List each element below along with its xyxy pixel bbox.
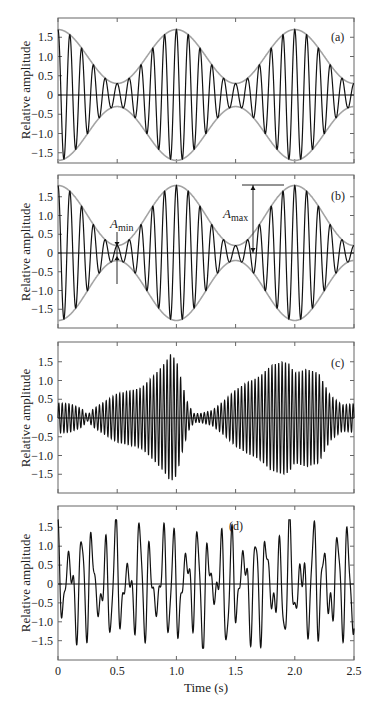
y-tick-label: 0 xyxy=(47,88,53,102)
y-tick-label: 1.0 xyxy=(38,374,53,388)
panel-a-envelope-upper xyxy=(58,30,354,84)
panel-c-signal xyxy=(58,354,354,480)
panel-c-label: (c) xyxy=(331,356,344,370)
y-tick-label: −1.0 xyxy=(31,449,53,463)
panel-b-ylabel: Relative amplitude xyxy=(18,202,33,301)
y-tick-label: 1.5 xyxy=(38,190,53,204)
panel-d-ylabel: Relative amplitude xyxy=(18,533,33,632)
y-tick-label: 0.5 xyxy=(38,558,53,572)
y-tick-label: 0 xyxy=(47,246,53,260)
a-min-annotation: Amin xyxy=(109,216,134,284)
panel-c-ylabel: Relative amplitude xyxy=(18,368,33,467)
y-tick-label: −1.5 xyxy=(31,467,53,481)
a-min-label: Amin xyxy=(109,216,134,233)
y-tick-label: 1.5 xyxy=(38,520,53,534)
y-tick-label: 0 xyxy=(47,577,53,591)
x-tick-label: 1.0 xyxy=(169,664,184,678)
a-max-arrow-head-down xyxy=(251,248,256,253)
a-max-label: Amax xyxy=(222,206,248,223)
y-tick-label: −0.5 xyxy=(31,107,53,121)
y-tick-label: 0 xyxy=(47,411,53,425)
panel-d-xticks xyxy=(58,506,354,660)
panel-a-signal xyxy=(58,30,354,160)
y-tick-label: −1.0 xyxy=(31,127,53,141)
x-tick-label: 1.5 xyxy=(228,664,243,678)
y-tick-label: −0.5 xyxy=(31,430,53,444)
y-tick-label: 1.5 xyxy=(38,355,53,369)
y-tick-label: −1.5 xyxy=(31,302,53,316)
y-tick-label: −1.0 xyxy=(31,284,53,298)
panel-a-ylabel: Relative amplitude xyxy=(18,40,33,139)
y-tick-label: 0.5 xyxy=(38,392,53,406)
y-tick-label: −1.5 xyxy=(31,146,53,160)
panel-b-signal xyxy=(58,186,354,320)
y-tick-label: 1.0 xyxy=(38,50,53,64)
panel-a-label: (a) xyxy=(331,30,344,44)
y-tick-label: 1.0 xyxy=(38,539,53,553)
x-tick-label: 0 xyxy=(55,664,61,678)
panel-d-frame xyxy=(58,506,354,660)
y-tick-label: −1.5 xyxy=(31,634,53,648)
a-max-annotation: Amax xyxy=(222,185,284,253)
panel-d-label: (d) xyxy=(229,519,243,533)
x-tick-label: 0.5 xyxy=(110,664,125,678)
y-tick-label: 1.0 xyxy=(38,209,53,223)
panel-b-label: (b) xyxy=(331,189,345,203)
y-tick-label: −1.0 xyxy=(31,615,53,629)
y-tick-label: −0.5 xyxy=(31,265,53,279)
panel-d: 1.51.00.50−0.5−1.0−1.5 (d) Relative ampl… xyxy=(18,506,362,695)
y-tick-label: −0.5 xyxy=(31,596,53,610)
y-tick-label: 1.5 xyxy=(38,30,53,44)
panel-c: 1.51.00.50−0.5−1.0−1.5 (c) Relative ampl… xyxy=(18,342,354,493)
figure: 1.51.00.50−0.5−1.0−1.5 (a) Relative ampl… xyxy=(0,0,373,704)
x-axis-title: Time (s) xyxy=(184,680,228,695)
y-tick-label: 0.5 xyxy=(38,69,53,83)
x-tick-label: 2.5 xyxy=(347,664,362,678)
a-min-arrow-head-up xyxy=(115,256,120,260)
x-tick-labels: 00.51.01.52.02.5 xyxy=(55,664,362,678)
x-tick-label: 2.0 xyxy=(287,664,302,678)
a-max-arrow-head-up xyxy=(251,186,256,191)
panel-b: 1.51.00.50−0.5−1.0−1.5 Amin Amax (b) Rel… xyxy=(18,175,354,328)
y-tick-label: 0.5 xyxy=(38,227,53,241)
panel-a: 1.51.00.50−0.5−1.0−1.5 (a) Relative ampl… xyxy=(18,18,354,163)
